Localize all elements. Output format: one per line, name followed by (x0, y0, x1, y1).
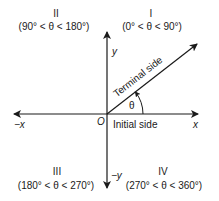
initial-side-label: Initial side (113, 119, 157, 130)
theta-label: θ (129, 100, 135, 111)
quadrant-i-numeral: I (150, 8, 153, 19)
origin-label: O (97, 116, 105, 127)
terminal-side-ray (107, 44, 197, 114)
neg-y-axis-label: −y (111, 170, 122, 181)
angle-arc (135, 92, 143, 114)
x-axis-label: x (193, 119, 198, 130)
quadrant-iv-numeral: IV (158, 166, 167, 177)
quadrant-iii-numeral: III (53, 166, 61, 177)
quadrant-iv-range: (270° < θ < 360°) (126, 180, 202, 191)
y-axis-label: y (112, 46, 117, 57)
quadrant-ii-numeral: II (53, 8, 59, 19)
quadrant-i-range: (0° < θ < 90°) (122, 21, 182, 32)
neg-x-axis-label: −x (14, 119, 25, 130)
quadrant-ii-range: (90° < θ < 180°) (19, 21, 90, 32)
quadrant-iii-range: (180° < θ < 270°) (18, 180, 94, 191)
